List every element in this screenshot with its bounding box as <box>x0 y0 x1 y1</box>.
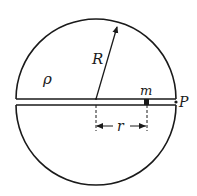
radius-label: R <box>91 50 103 68</box>
sphere-tunnel-diagram: ρ R m P r <box>0 0 197 196</box>
point-label: P <box>178 94 189 110</box>
distance-label: r <box>117 118 125 134</box>
density-label: ρ <box>42 70 52 88</box>
point-p-marker <box>174 100 177 103</box>
mass-marker <box>144 99 149 105</box>
mass-label: m <box>140 83 152 98</box>
center-point <box>95 98 97 100</box>
